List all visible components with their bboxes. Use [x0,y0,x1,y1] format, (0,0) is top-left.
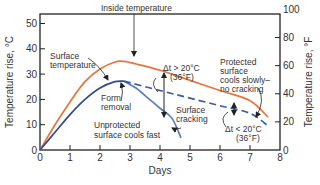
x-tick-label: 0 [37,152,43,163]
delta-t-lt-label-line2: (36°F) [236,133,260,143]
y-axis-right-ticks: 020406080100 [275,4,300,156]
y-tick-label: 40 [26,43,38,54]
y-tick-label: 30 [26,69,38,80]
temperature-rise-chart: 012345678 01020304050 020406080100 Days … [0,0,320,185]
unprotected-label-line2: surface cools fast [94,130,161,140]
protected-label-line4: no cracking [220,84,264,94]
x-tick-label: 4 [157,152,163,163]
y-right-tick-label: 60 [283,60,295,71]
x-tick-label: 3 [127,152,133,163]
x-tick-label: 5 [187,152,193,163]
x-tick-label: 7 [247,152,253,163]
y-axis-left-title: Temperature rise, °C [4,36,15,128]
y-tick-label: 0 [31,145,37,156]
x-tick-label: 2 [97,152,103,163]
y-right-tick-label: 40 [283,88,295,99]
y-axis-left-ticks: 01020304050 [26,18,45,156]
y-right-tick-label: 0 [283,145,289,156]
delta-t-gt-label-line2: (36°F) [170,72,194,82]
inside-temperature-label: Inside temperature [101,3,172,13]
form-removal-label-line2: removal [101,102,131,112]
x-axis-ticks: 012345678 [37,145,283,163]
y-tick-label: 10 [26,119,38,130]
x-tick-label: 6 [217,152,223,163]
x-axis-title: Days [149,165,172,176]
surface-temperature-label-line2: temperature [50,60,96,70]
y-right-tick-label: 100 [283,4,300,15]
x-tick-label: 1 [67,152,73,163]
unprotected-label-line1: Unprotected [94,120,141,130]
y-tick-label: 50 [26,18,38,29]
y-right-tick-label: 20 [283,116,295,127]
y-tick-label: 20 [26,94,38,105]
y-axis-right-title: Temperature rise, °F [303,37,314,128]
annotations: Inside temperature Surface temperature F… [50,3,270,143]
y-right-tick-label: 80 [283,32,295,43]
surface-cracking-label-line2: cracking [176,114,208,124]
